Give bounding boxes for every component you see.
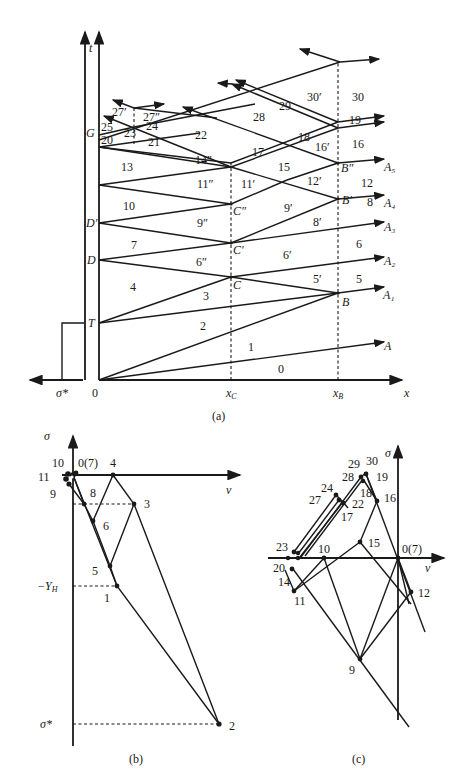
region-0: 0	[278, 362, 284, 376]
region-6: 6	[356, 237, 362, 251]
origin-label: 0	[92, 386, 98, 400]
b-path-0-1-2	[73, 475, 219, 724]
wave-A1-label: A₁	[382, 288, 395, 302]
point-B-dprime: B″	[341, 161, 354, 175]
wave-0A	[99, 342, 384, 380]
wave-TB	[99, 293, 338, 323]
b-point-5: 5	[92, 564, 98, 578]
x-axis-label: x	[403, 386, 410, 400]
b-point-11: 11	[38, 470, 50, 484]
point-C: C	[233, 278, 242, 292]
b-point-0-7: 0(7)	[78, 456, 98, 470]
load-pulse	[62, 323, 84, 380]
wave-DC	[99, 260, 231, 277]
xb-label: xB	[332, 386, 343, 401]
region-11-prime: 11′	[241, 177, 256, 191]
c-point-23: 23	[276, 540, 288, 554]
region-18: 18	[298, 130, 310, 144]
t-axis-label: t	[89, 41, 93, 55]
region-28: 28	[253, 110, 265, 124]
c-line-14-9	[293, 569, 409, 727]
c-point-15: 15	[368, 536, 380, 550]
c-point-20: 20	[273, 561, 285, 575]
region-3: 3	[203, 289, 209, 303]
region-15: 15	[278, 160, 290, 174]
panel-b: σ v 10 0(7) 4 11 9 8 3	[37, 429, 240, 766]
caption-a: (a)	[212, 409, 225, 423]
b-point-1: 1	[104, 591, 110, 605]
c-point-29: 29	[348, 457, 360, 471]
c-sigma-label: σ	[385, 446, 392, 460]
region-13: 13	[121, 160, 133, 174]
c-line-to-29	[305, 479, 363, 556]
wave-BA1	[338, 287, 384, 293]
c-point-19: 19	[376, 470, 388, 484]
c-point-14: 14	[278, 575, 290, 589]
region-14-dprime: 14″	[195, 153, 212, 167]
point-D: D	[86, 253, 96, 267]
c-v-label: v	[425, 561, 431, 575]
b-sigma-label: σ	[44, 429, 51, 443]
region-9-prime: 9′	[284, 201, 293, 215]
c-point-28: 28	[342, 470, 354, 484]
region-23: 23	[124, 126, 136, 140]
region-12-prime: 12′	[307, 174, 322, 188]
region-16-prime: 16′	[315, 140, 330, 154]
region-20: 20	[101, 133, 113, 147]
b-tick-sigstar: σ*	[40, 717, 52, 731]
b-point-6: 6	[103, 519, 109, 533]
b-point-9: 9	[50, 487, 56, 501]
region-30: 30	[352, 90, 364, 104]
wave-A2-label: A₂	[383, 254, 396, 268]
region-5-prime: 5′	[313, 272, 322, 286]
b-point-3: 3	[144, 497, 150, 511]
region-27-dprime: 27″	[143, 110, 160, 124]
b-path-9-8	[69, 484, 84, 504]
c-point-30: 30	[366, 454, 378, 468]
panel-a: t x 0 σ* xC xB T D D′ G C C′ C″ B B′ B″ …	[30, 32, 410, 423]
wave-A3-label: A₃	[383, 220, 396, 234]
region-17: 17	[252, 145, 264, 159]
c-point-0-7: 0(7)	[402, 542, 422, 556]
wave-A-label: A	[383, 339, 392, 353]
region-11-dprime: 11″	[197, 177, 214, 191]
point-C-dprime: C″	[233, 204, 247, 218]
caption-b: (b)	[129, 752, 143, 766]
c-line-9-12	[360, 592, 411, 659]
wave-arrow-tip	[218, 83, 232, 84]
b-point-2: 2	[229, 719, 235, 733]
region-4: 4	[130, 280, 136, 294]
b-tick-YH: −YH	[37, 579, 59, 594]
wave-top-back	[300, 49, 340, 62]
sigma-star-label: σ*	[56, 386, 68, 400]
region-labels: 0 1 2 3 4 5 5′ 6 6′ 6″ 7 8 8′ 9′ 9″ 10 1…	[101, 90, 373, 376]
region-19: 19	[349, 113, 361, 127]
c-point-16: 16	[384, 491, 396, 505]
wave-27-fwd	[134, 104, 164, 108]
b-path-2-3-4-6-5-3	[93, 475, 219, 724]
region-27-prime: 27′	[112, 105, 127, 119]
wave-diagram-figure: t x 0 σ* xC xB T D D′ G C C′ C″ B B′ B″ …	[0, 0, 469, 777]
c-point-12: 12	[418, 586, 430, 600]
c-point-24: 24	[321, 481, 333, 495]
point-D-prime: D′	[85, 216, 98, 230]
region-22: 22	[195, 128, 207, 142]
region-29: 29	[279, 99, 291, 113]
panel-c: σ v	[268, 446, 444, 766]
wave-D1C1	[99, 223, 231, 243]
region-9-dprime: 9″	[197, 216, 208, 230]
wave-top-fwd	[340, 59, 379, 62]
point-B: B	[342, 295, 350, 309]
region-8: 8	[367, 195, 373, 209]
b-point-8: 8	[90, 486, 96, 500]
region-7: 7	[131, 238, 137, 252]
region-6-dprime: 6″	[196, 255, 207, 269]
b-path-5-1	[110, 566, 117, 586]
point-G: G	[86, 126, 95, 140]
wave-TC	[99, 277, 231, 323]
region-10: 10	[123, 199, 135, 213]
region-21: 21	[148, 135, 160, 149]
wave-A4-label: A₄	[383, 196, 396, 210]
wave-19a	[338, 122, 384, 128]
xc-label: xC	[225, 386, 237, 401]
